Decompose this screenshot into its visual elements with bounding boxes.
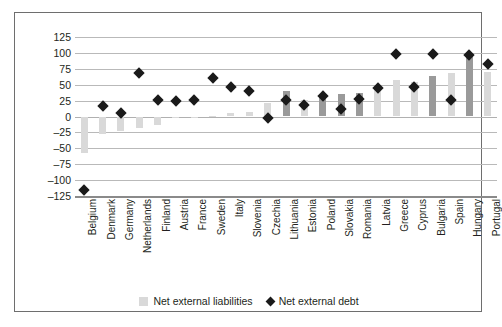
x-axis-label-hungary: Hungary: [473, 199, 483, 237]
x-axis-label-poland: Poland: [327, 199, 337, 230]
bar-belgium: [81, 117, 88, 154]
x-axis-label-portugal: Portugal: [492, 199, 502, 236]
marker-sweden: [207, 72, 218, 83]
y-axis-tick-label: 125: [25, 32, 71, 43]
bar-portugal: [484, 72, 491, 117]
bar-netherlands: [136, 117, 143, 128]
marker-austria: [170, 96, 181, 107]
x-axis-label-bulgaria: Bulgaria: [437, 199, 447, 236]
gridline: [75, 164, 497, 165]
bar-sweden: [209, 116, 216, 117]
marker-greece: [390, 49, 401, 60]
y-axis-tick-label: 50: [25, 79, 71, 90]
bar-denmark: [99, 117, 106, 134]
x-axis-line: [75, 196, 497, 198]
gridline: [75, 132, 497, 133]
marker-finland: [152, 94, 163, 105]
x-axis-label-slovenia: Slovenia: [253, 199, 263, 237]
legend-diamond-icon: [265, 296, 275, 306]
x-axis-label-slovakia: Slovakia: [345, 199, 355, 237]
y-axis-tick-label: –75: [25, 159, 71, 170]
x-axis-label-netherlands: Netherlands: [143, 199, 153, 253]
chart-legend: Net external liabilities Net external de…: [15, 295, 483, 307]
bar-bulgaria: [429, 76, 436, 116]
marker-slovenia: [244, 85, 255, 96]
bar-greece: [393, 80, 400, 116]
y-axis-tick-label: 25: [25, 95, 71, 106]
marker-denmark: [97, 101, 108, 112]
x-axis-label-belgium: Belgium: [88, 199, 98, 235]
x-axis-label-france: France: [198, 199, 208, 230]
x-axis-label-italy: Italy: [235, 199, 245, 217]
x-axis-label-finland: Finland: [162, 199, 172, 232]
marker-italy: [225, 81, 236, 92]
y-axis-tick-label: –100: [25, 175, 71, 186]
x-axis-label-estonia: Estonia: [308, 199, 318, 232]
x-axis-label-romania: Romania: [363, 199, 373, 239]
x-axis-label-spain: Spain: [455, 199, 465, 225]
marker-belgium: [79, 184, 90, 195]
y-axis-tick-label: 100: [25, 48, 71, 59]
y-axis-tick-labels: 1251007550250–25–50–75–100–125: [23, 37, 71, 196]
x-axis-category-labels: BelgiumDenmarkGermanyNetherlandsFinlandA…: [75, 199, 497, 275]
bar-slovenia: [246, 112, 253, 116]
gridline: [75, 148, 497, 149]
legend-item-net-external-liabilities: Net external liabilities: [139, 295, 252, 307]
y-axis-tick-label: –25: [25, 127, 71, 138]
x-axis-label-sweden: Sweden: [217, 199, 227, 235]
legend-swatch-icon: [139, 297, 148, 306]
marker-bulgaria: [427, 49, 438, 60]
bar-finland: [154, 117, 161, 125]
gridline: [75, 37, 497, 38]
gridline: [75, 180, 497, 181]
marker-france: [189, 94, 200, 105]
plot-area: [75, 37, 497, 196]
y-axis-tick-label: 0: [25, 111, 71, 122]
legend-item-net-external-debt: Net external debt: [267, 295, 359, 307]
x-axis-label-germany: Germany: [125, 199, 135, 240]
y-axis-tick-label: –125: [25, 191, 71, 202]
bar-hungary: [466, 54, 473, 116]
x-axis-label-austria: Austria: [180, 199, 190, 230]
x-axis-label-latvia: Latvia: [382, 199, 392, 226]
marker-portugal: [482, 58, 493, 69]
legend-label-debt: Net external debt: [279, 295, 359, 307]
chart-frame: 1251007550250–25–50–75–100–125 BelgiumDe…: [14, 12, 482, 312]
bar-austria: [172, 117, 179, 119]
legend-label-liabilities: Net external liabilities: [153, 295, 252, 307]
x-axis-label-greece: Greece: [400, 199, 410, 232]
bar-france: [191, 117, 198, 118]
x-axis-label-denmark: Denmark: [107, 199, 117, 240]
bar-italy: [227, 113, 234, 117]
x-axis-label-lithuania: Lithuania: [290, 199, 300, 240]
x-axis-label-cyprus: Cyprus: [418, 199, 428, 231]
y-axis-tick-label: –50: [25, 143, 71, 154]
x-axis-label-czechia: Czechia: [272, 199, 282, 235]
y-axis-tick-label: 75: [25, 64, 71, 75]
